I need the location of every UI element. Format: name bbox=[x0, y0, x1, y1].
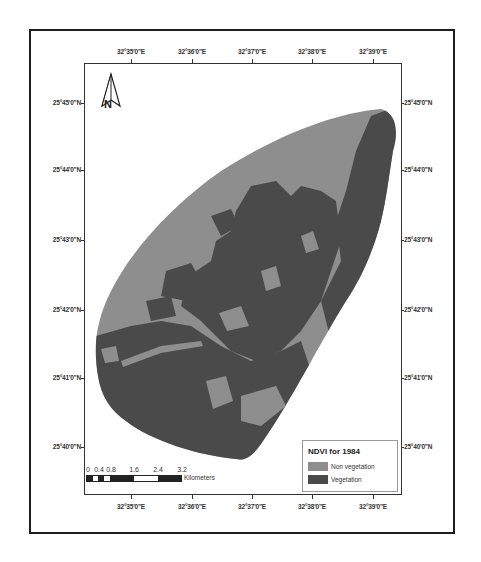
legend-title: NDVI for 1984 bbox=[308, 447, 360, 456]
scale-tick-label: 1.6 bbox=[129, 466, 139, 473]
latitude-label-left: 25°42'0"N bbox=[33, 306, 81, 313]
scale-tick-label: 0 bbox=[86, 466, 90, 473]
latitude-label-left: 25°43'0"N bbox=[33, 236, 81, 243]
longitude-label-top: 32°37'0"E bbox=[238, 48, 266, 55]
longitude-label-bottom: 32°37'0"E bbox=[238, 503, 266, 510]
scale-tick-label: 0.8 bbox=[106, 466, 116, 473]
legend-swatch-non-vegetation bbox=[308, 462, 328, 471]
legend-swatch-vegetation bbox=[308, 475, 328, 484]
longitude-label-bottom: 32°38'0"E bbox=[298, 503, 326, 510]
latitude-label-left: 25°44'0"N bbox=[33, 166, 81, 173]
map-data-frame bbox=[84, 63, 402, 495]
latitude-label-right: 25°45'0"N bbox=[404, 99, 432, 106]
longitude-label-top: 32°38'0"E bbox=[298, 48, 326, 55]
map-legend: NDVI for 1984 Non vegetation Vegetation bbox=[302, 440, 398, 492]
longitude-label-top: 32°39'0"E bbox=[359, 48, 387, 55]
latitude-label-left: 25°41'0"N bbox=[33, 374, 81, 381]
latitude-label-left: 25°45'0"N bbox=[33, 99, 81, 106]
scale-tick-label: 3.2 bbox=[177, 466, 187, 473]
north-arrow-label: N bbox=[104, 98, 112, 110]
scale-tick-label: 2.4 bbox=[153, 466, 163, 473]
latitude-label-right: 25°44'0"N bbox=[404, 166, 432, 173]
legend-item-vegetation: Vegetation bbox=[308, 475, 362, 484]
legend-item-non-vegetation: Non vegetation bbox=[308, 462, 375, 471]
legend-label: Non vegetation bbox=[331, 463, 375, 470]
longitude-label-bottom: 32°36'0"E bbox=[178, 503, 206, 510]
legend-label: Vegetation bbox=[331, 476, 362, 483]
latitude-label-right: 25°42'0"N bbox=[404, 306, 432, 313]
latitude-label-left: 25°40'0"N bbox=[33, 443, 81, 450]
longitude-label-bottom: 32°39'0"E bbox=[359, 503, 387, 510]
latitude-label-right: 25°43'0"N bbox=[404, 236, 432, 243]
latitude-label-right: 25°40'0"N bbox=[404, 443, 432, 450]
longitude-label-bottom: 32°35'0"E bbox=[117, 503, 145, 510]
scale-bar-graphic bbox=[86, 475, 182, 482]
latitude-label-right: 25°41'0"N bbox=[404, 374, 432, 381]
longitude-label-top: 32°35'0"E bbox=[117, 48, 145, 55]
scale-unit-label: Kilometers bbox=[184, 474, 215, 481]
longitude-label-top: 32°36'0"E bbox=[178, 48, 206, 55]
ndvi-map-svg bbox=[85, 64, 401, 494]
scale-tick-label: 0.4 bbox=[94, 466, 104, 473]
